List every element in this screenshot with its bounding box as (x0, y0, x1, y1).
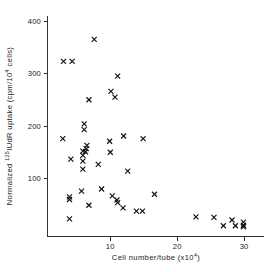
y-tick-label: 100 (28, 174, 41, 183)
data-point (107, 139, 112, 144)
x-axis-title: Cell number/tube (x104) (112, 252, 200, 262)
data-point (60, 136, 65, 141)
y-axis-ticks (44, 21, 48, 179)
x-tick-label: 30 (240, 242, 249, 251)
svg-text:Cell number/tube (x104): Cell number/tube (x104) (112, 252, 200, 262)
data-point (230, 217, 235, 222)
data-point (92, 37, 97, 42)
data-point (140, 209, 145, 214)
x-axis-ticks (110, 237, 244, 241)
data-point (152, 192, 157, 197)
data-point (82, 121, 87, 126)
data-point (80, 167, 85, 172)
data-point (134, 209, 139, 214)
data-point (61, 59, 66, 64)
data-point (121, 133, 126, 138)
data-point (121, 205, 126, 210)
data-point (86, 97, 91, 102)
data-point (110, 193, 115, 198)
y-tick-label: 300 (28, 69, 41, 78)
data-point (70, 59, 75, 64)
data-point (79, 189, 84, 194)
data-point (108, 150, 113, 155)
data-point (193, 214, 198, 219)
svg-text:Normalized 125IUdR uptake (cpm: Normalized 125IUdR uptake (cpm/104 cells… (4, 47, 14, 206)
data-point (112, 95, 117, 100)
y-axis-tick-labels: 100200300400 (28, 17, 41, 184)
data-point (108, 89, 113, 94)
data-point (141, 136, 146, 141)
data-point (233, 223, 238, 228)
data-point (67, 194, 72, 199)
data-point (86, 203, 91, 208)
x-axis-tick-labels: 102030 (106, 242, 249, 251)
data-point (67, 197, 72, 202)
data-point (221, 223, 226, 228)
data-point (115, 74, 120, 79)
x-tick-label: 20 (173, 242, 182, 251)
x-tick-label: 10 (106, 242, 115, 251)
data-point-markers (60, 37, 246, 229)
data-point (211, 215, 216, 220)
y-tick-label: 400 (28, 17, 41, 26)
data-point (96, 162, 101, 167)
axis-frame (48, 16, 265, 237)
y-axis-title: Normalized 125IUdR uptake (cpm/104 cells… (4, 47, 14, 206)
data-point (68, 157, 73, 162)
data-point (80, 159, 85, 164)
axis-lines (48, 16, 265, 237)
plot-canvas: 100200300400 102030 Cell number/tube (x1… (0, 0, 265, 272)
y-tick-label: 200 (28, 122, 41, 131)
data-point (99, 187, 104, 192)
data-point (82, 127, 87, 132)
scatter-plot-figure: 100200300400 102030 Cell number/tube (x1… (0, 0, 265, 272)
data-point (125, 169, 130, 174)
data-point (67, 216, 72, 221)
